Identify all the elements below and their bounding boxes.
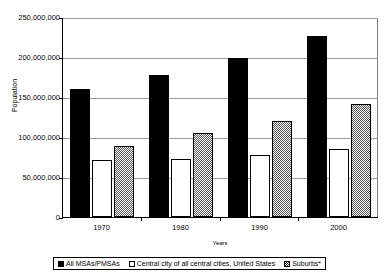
bar-2000-series-0	[307, 36, 327, 217]
x-axis-tick-mark	[141, 217, 142, 221]
x-axis-tick-label-1980: 1980	[141, 224, 220, 232]
plot-area: 050,000,000100,000,000150,000,000200,000…	[62, 18, 378, 218]
bar-1990-series-1	[250, 155, 270, 217]
legend-item-2[interactable]: Suburbs*	[284, 260, 321, 267]
y-axis-tick-label: 200,000,000	[0, 54, 60, 62]
x-axis-tick-label-1990: 1990	[220, 224, 299, 232]
chart-legend: All MSAs/PMSAsCentral city of all centra…	[53, 257, 326, 270]
bar-group-1970	[63, 18, 142, 217]
legend-label-2: Suburbs*	[292, 260, 321, 267]
legend-swatch-icon-0	[58, 261, 64, 267]
y-axis-tick-label: 50,000,000	[0, 174, 60, 182]
bar-1970-series-1	[92, 160, 112, 217]
y-axis-tick-label: 150,000,000	[0, 94, 60, 102]
legend-swatch-icon-2	[284, 261, 290, 267]
bar-1990-series-0	[228, 58, 248, 217]
x-axis-title: Years	[62, 240, 378, 246]
bar-group-1980	[142, 18, 221, 217]
bar-group-1990	[221, 18, 300, 217]
y-axis-tick-label: 100,000,000	[0, 134, 60, 142]
x-axis-tick-mark	[298, 217, 299, 221]
legend-swatch-icon-1	[129, 261, 135, 267]
x-axis-tick-mark	[220, 217, 221, 221]
legend-item-0[interactable]: All MSAs/PMSAs	[58, 260, 120, 267]
y-axis-tick-label: 250,000,000	[0, 14, 60, 22]
bar-1980-series-2	[193, 133, 213, 217]
x-axis-tick-label-2000: 2000	[299, 224, 378, 232]
bar-1970-series-2	[114, 146, 134, 217]
x-axis-tick-labels: 1970198019902000	[62, 224, 378, 232]
bar-1980-series-1	[171, 159, 191, 217]
bar-1980-series-0	[149, 75, 169, 217]
y-axis-tick-label: 0	[0, 214, 60, 222]
bar-groups	[63, 18, 378, 217]
bar-group-2000	[299, 18, 378, 217]
y-axis-tick-mark	[59, 218, 63, 219]
population-bar-chart: Population 050,000,000100,000,000150,000…	[0, 0, 392, 280]
bar-1990-series-2	[272, 121, 292, 217]
legend-item-1[interactable]: Central city of all central cities, Unit…	[129, 260, 276, 267]
bar-1970-series-0	[70, 89, 90, 217]
legend-label-1: Central city of all central cities, Unit…	[137, 260, 276, 267]
bar-2000-series-2	[351, 104, 371, 217]
x-axis-tick-label-1970: 1970	[62, 224, 141, 232]
legend-label-0: All MSAs/PMSAs	[66, 260, 120, 267]
bar-2000-series-1	[329, 149, 349, 217]
